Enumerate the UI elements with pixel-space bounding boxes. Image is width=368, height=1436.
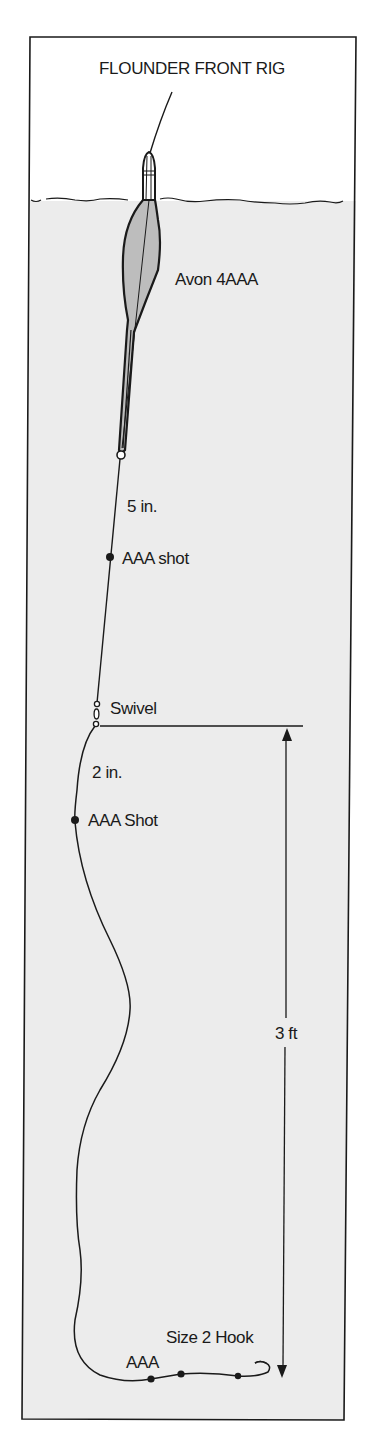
depth-label: 3 ft bbox=[275, 1024, 298, 1043]
distance-2in-label: 2 in. bbox=[92, 763, 122, 782]
swivel-label: Swivel bbox=[110, 699, 157, 718]
bottom-shot-icon bbox=[177, 1370, 184, 1377]
flounder-rig-diagram: FLOUNDER FRONT RIG bbox=[0, 0, 368, 1436]
lower-shot-icon bbox=[71, 816, 79, 824]
main-line-above-water bbox=[150, 92, 172, 153]
swivel-icon bbox=[93, 701, 99, 726]
float-label: Avon 4AAA bbox=[175, 270, 259, 289]
bottom-shot-icon bbox=[235, 1373, 241, 1379]
upper-shot-label: AAA shot bbox=[122, 549, 189, 568]
distance-5in-label: 5 in. bbox=[127, 497, 157, 516]
bottom-shots-label: AAA bbox=[126, 1353, 160, 1372]
water-area bbox=[22, 201, 356, 1420]
diagram-title: FLOUNDER FRONT RIG bbox=[99, 59, 285, 78]
lower-shot-label: AAA Shot bbox=[88, 811, 158, 830]
upper-shot-icon bbox=[106, 553, 114, 561]
hook-label: Size 2 Hook bbox=[166, 1328, 254, 1347]
bottom-shot-icon bbox=[147, 1375, 154, 1382]
